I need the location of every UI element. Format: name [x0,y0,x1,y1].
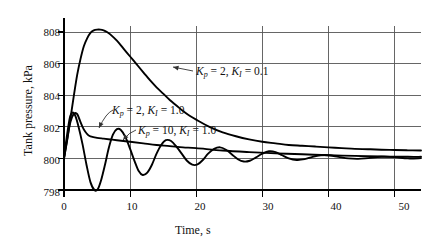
chart-figure: 808 806 804 802 800 798 0 10 20 30 40 50… [0,0,427,251]
annot1-k1: K [196,65,204,77]
x-tick-label-0: 0 [49,201,79,212]
annotation-kp2-ki0p1: Kp = 2, KI = 0.1 [196,65,268,79]
y-tick-label-798: 798 [26,187,60,198]
annot1-k2: K [231,65,239,77]
annot3-eq2: = 1.0 [190,124,217,136]
annot3-eq1: = 10, [150,124,180,136]
curve-1 [64,113,421,158]
annot2-eq2: = 1.0 [158,104,185,116]
annot2-eq1: = 2, [124,104,148,116]
annot2-k1: K [112,104,120,116]
x-tick-label-40: 40 [321,201,351,212]
annot2-k2: K [147,104,155,116]
x-tick-label-20: 20 [185,201,215,212]
annot3-k2: K [179,124,187,136]
curve-0 [64,30,421,159]
y-axis-title: Tank pressure, kPa [21,36,36,186]
x-axis-title: Time, s [175,223,211,238]
annot1-eq2: = 0.1 [242,65,269,77]
annotation-kp2-ki1p0: Kp = 2, KI = 1.0 [112,104,184,118]
x-tick-label-50: 50 [389,201,419,212]
annot1-eq1: = 2, [208,65,232,77]
x-tick-label-10: 10 [117,201,147,212]
tick-marks [58,32,395,197]
x-tick-label-30: 30 [253,201,283,212]
leader-annot-1-arrowhead [173,66,179,71]
annot3-k1: K [138,124,146,136]
annotation-kp10-ki1p0: Kp = 10, KI = 1.0 [138,124,216,138]
